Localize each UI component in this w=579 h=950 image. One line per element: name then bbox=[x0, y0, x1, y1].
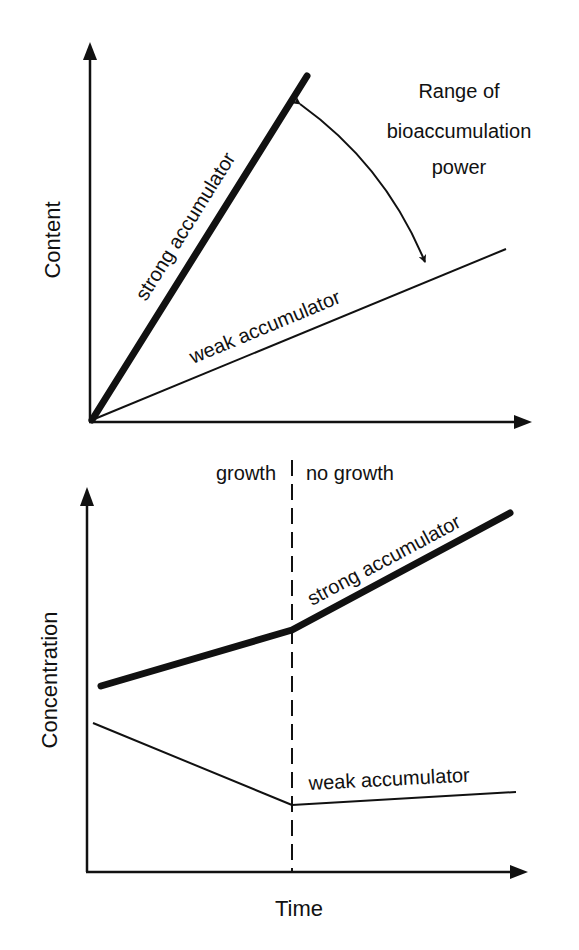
diagram-canvas: Content strong accumulator weak accumula… bbox=[0, 0, 579, 950]
bottom-x-label: Time bbox=[275, 896, 323, 921]
bottom-x-axis bbox=[86, 865, 528, 879]
arrow-up-icon bbox=[83, 42, 97, 60]
annotation-line-3: power bbox=[432, 156, 487, 178]
top-x-axis bbox=[89, 415, 532, 429]
bottom-y-axis bbox=[80, 487, 94, 872]
bottom-weak-label: weak accumulator bbox=[307, 764, 470, 794]
top-strong-label: strong accumulator bbox=[131, 148, 240, 304]
annotation-line-2: bioaccumulation bbox=[387, 120, 532, 142]
arrow-right-icon bbox=[514, 415, 532, 429]
phase-growth-label: growth bbox=[216, 462, 276, 484]
arrow-right-icon bbox=[510, 865, 528, 879]
top-y-axis bbox=[83, 42, 97, 422]
phase-no-growth-label: no growth bbox=[306, 462, 394, 484]
top-strong-line bbox=[92, 76, 307, 420]
bottom-chart: growth no growth Concentration Time stro… bbox=[37, 460, 528, 921]
top-chart: Content strong accumulator weak accumula… bbox=[40, 42, 532, 429]
bottom-strong-line bbox=[101, 513, 510, 686]
bottom-strong-label: strong accumulator bbox=[304, 510, 465, 609]
bottom-y-label: Concentration bbox=[37, 612, 62, 749]
annotation-line-1: Range of bbox=[418, 80, 500, 102]
arrow-up-icon bbox=[80, 487, 94, 506]
top-y-label: Content bbox=[40, 201, 65, 278]
